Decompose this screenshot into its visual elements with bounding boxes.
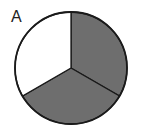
fraction-circle [0, 0, 142, 134]
